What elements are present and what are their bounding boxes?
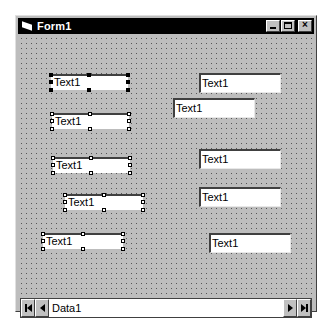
title-bar[interactable]: Form1 ×: [18, 18, 314, 34]
resize-handle[interactable]: [88, 112, 92, 116]
textbox-text: Text1: [68, 196, 94, 208]
close-icon: ×: [299, 19, 311, 31]
textbox[interactable]: Text1: [209, 233, 291, 253]
resize-handle[interactable]: [141, 193, 145, 197]
resize-handle[interactable]: [49, 88, 53, 92]
form-window: Form1 × Text1 Text1: [15, 15, 317, 312]
resize-handle[interactable]: [88, 127, 92, 131]
resize-handle[interactable]: [126, 88, 130, 92]
move-previous-icon: [38, 303, 47, 313]
resize-handle[interactable]: [41, 232, 45, 236]
form-icon[interactable]: [21, 21, 33, 31]
resize-handle[interactable]: [63, 200, 67, 204]
move-next-icon: [286, 303, 295, 313]
caption-buttons: ×: [265, 20, 312, 32]
resize-handle[interactable]: [41, 247, 45, 251]
close-button[interactable]: ×: [298, 20, 312, 32]
move-previous-button[interactable]: [35, 299, 49, 317]
resize-handle[interactable]: [89, 171, 93, 175]
resize-handle[interactable]: [41, 239, 45, 243]
resize-handle[interactable]: [127, 112, 131, 116]
minimize-icon: [270, 27, 276, 29]
resize-handle[interactable]: [128, 156, 132, 160]
data-control[interactable]: Data1: [20, 298, 312, 318]
resize-handle[interactable]: [121, 247, 125, 251]
resize-handle[interactable]: [87, 73, 91, 77]
textbox[interactable]: Text1: [199, 187, 281, 207]
window-title: Form1: [37, 20, 72, 32]
resize-handle[interactable]: [63, 193, 67, 197]
textbox[interactable]: Text1: [173, 98, 255, 118]
textbox[interactable]: Text1: [199, 73, 281, 93]
move-first-button[interactable]: [21, 299, 35, 317]
resize-handle[interactable]: [50, 112, 54, 116]
resize-handle[interactable]: [49, 73, 53, 77]
resize-handle[interactable]: [63, 208, 67, 212]
resize-handle[interactable]: [50, 127, 54, 131]
data-control-caption: Data1: [49, 299, 283, 317]
resize-handle[interactable]: [127, 119, 131, 123]
resize-handle[interactable]: [50, 119, 54, 123]
resize-handle[interactable]: [51, 163, 55, 167]
resize-handle[interactable]: [128, 163, 132, 167]
resize-handle[interactable]: [102, 193, 106, 197]
resize-handle[interactable]: [121, 232, 125, 236]
maximize-icon: [284, 22, 292, 29]
minimize-button[interactable]: [266, 20, 280, 32]
resize-handle[interactable]: [127, 127, 131, 131]
selected-textbox[interactable]: Text1: [65, 194, 143, 210]
resize-handle[interactable]: [81, 247, 85, 251]
resize-handle[interactable]: [87, 88, 91, 92]
resize-handle[interactable]: [121, 239, 125, 243]
resize-handle[interactable]: [51, 171, 55, 175]
textbox-text: Text1: [56, 159, 82, 171]
resize-handle[interactable]: [51, 156, 55, 160]
form-design-surface[interactable]: Text1 Text1 Text1: [18, 35, 314, 309]
move-last-icon: [300, 303, 309, 313]
resize-handle[interactable]: [102, 208, 106, 212]
selected-textbox-primary[interactable]: Text1: [51, 74, 128, 90]
textbox-text: Text1: [54, 76, 80, 88]
resize-handle[interactable]: [128, 171, 132, 175]
selected-textbox[interactable]: Text1: [53, 157, 130, 173]
resize-handle[interactable]: [141, 200, 145, 204]
selected-textbox[interactable]: Text1: [52, 113, 129, 129]
move-last-button[interactable]: [297, 299, 311, 317]
textbox[interactable]: Text1: [199, 149, 281, 169]
selected-textbox[interactable]: Text1: [43, 233, 123, 249]
resize-handle[interactable]: [126, 73, 130, 77]
resize-handle[interactable]: [81, 232, 85, 236]
textbox-text: Text1: [46, 235, 72, 247]
move-first-icon: [24, 303, 33, 313]
resize-handle[interactable]: [89, 156, 93, 160]
textbox-text: Text1: [55, 115, 81, 127]
resize-handle[interactable]: [141, 208, 145, 212]
maximize-button[interactable]: [281, 20, 295, 32]
move-next-button[interactable]: [283, 299, 297, 317]
resize-handle[interactable]: [49, 80, 53, 84]
resize-handle[interactable]: [126, 80, 130, 84]
